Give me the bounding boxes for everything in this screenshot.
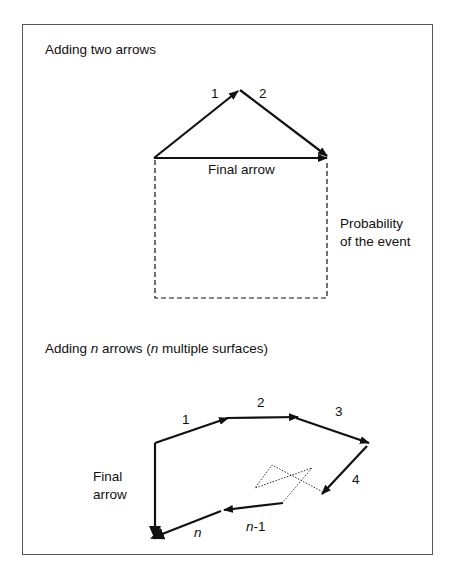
arrow-2-bottom-label: 2 xyxy=(257,395,265,411)
arrow-1-label: 1 xyxy=(211,86,219,102)
final-arrow-bottom-line2: arrow xyxy=(93,487,127,503)
arrow-1-bottom xyxy=(155,418,228,443)
two-arrows-diagram xyxy=(154,90,327,298)
arrow-4-bottom-label: 4 xyxy=(352,472,360,488)
arrow-1-bottom-label: 1 xyxy=(182,412,190,428)
arrow-n-minus-1 xyxy=(224,503,283,510)
final-arrow-label: Final arrow xyxy=(208,162,275,178)
probability-square xyxy=(155,160,327,298)
arrow-3-bottom xyxy=(296,418,369,443)
arrow-n-label: n xyxy=(194,525,202,541)
arrow-n xyxy=(152,511,221,538)
diagram-canvas xyxy=(0,0,455,576)
probability-label-line1: Probability xyxy=(340,216,403,232)
arrow-3-bottom-label: 3 xyxy=(335,404,343,420)
top-diagram-title: Adding two arrows xyxy=(45,42,156,58)
arrow-2-bottom xyxy=(226,417,298,418)
intermediate-arrows-dotted xyxy=(255,465,323,502)
bottom-diagram-title: Adding n arrows (n multiple surfaces) xyxy=(45,341,268,357)
arrow-2 xyxy=(240,90,327,156)
final-arrow-bottom-line1: Final xyxy=(93,469,122,485)
probability-label-line2: of the event xyxy=(340,234,411,250)
arrow-1 xyxy=(154,91,238,158)
arrow-n-minus-1-label: n-1 xyxy=(246,519,266,535)
arrow-2-label: 2 xyxy=(259,86,267,102)
arrow-4-bottom xyxy=(322,446,367,494)
